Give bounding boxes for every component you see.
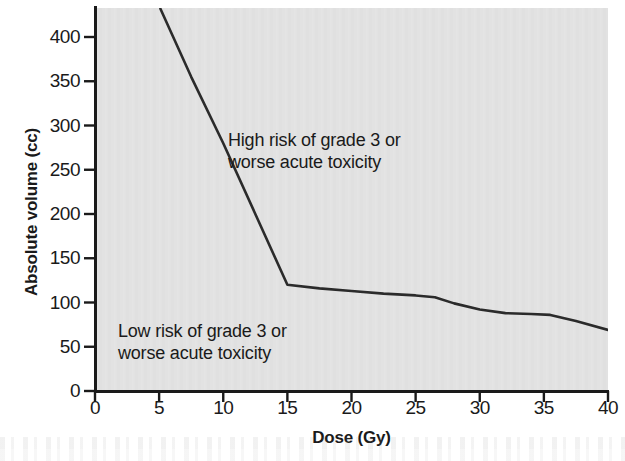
low-risk-region-label: Low risk of grade 3 or worse acute toxic… — [118, 320, 287, 364]
y-axis-ticks — [84, 37, 95, 391]
y-axis-title: Absolute volume (cc) — [22, 87, 42, 337]
x-axis-tick-label: 40 — [578, 398, 625, 417]
x-axis-title: Dose (Gy) — [95, 428, 608, 448]
x-axis-tick-label: 5 — [129, 398, 189, 417]
x-axis-tick-label: 20 — [322, 398, 382, 417]
y-axis-tick-label: 50 — [28, 337, 80, 356]
y-axis-tick-label: 400 — [28, 27, 80, 46]
x-axis-tick-label: 10 — [193, 398, 253, 417]
high-risk-region-label: High risk of grade 3 or worse acute toxi… — [228, 129, 400, 173]
x-axis-tick-label: 0 — [65, 398, 125, 417]
x-axis-tick-label: 25 — [386, 398, 446, 417]
x-axis-tick-label: 35 — [514, 398, 574, 417]
x-axis-tick-label: 30 — [450, 398, 510, 417]
x-axis-tick-label: 15 — [257, 398, 317, 417]
